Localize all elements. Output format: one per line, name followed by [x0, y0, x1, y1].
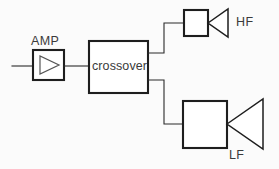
- amp-label: AMP: [31, 35, 59, 48]
- lf-speaker-box: [183, 101, 227, 148]
- crossover-label: crossover: [92, 60, 147, 73]
- hf-speaker-cone-icon: [208, 9, 228, 37]
- wire-crossover-to-hf: [148, 23, 184, 53]
- crossover-block-diagram: AMP crossover HF LF: [0, 0, 279, 169]
- lf-label: LF: [229, 149, 244, 162]
- wire-crossover-to-lf: [148, 80, 183, 124]
- lf-speaker-cone-icon: [227, 99, 263, 149]
- hf-label: HF: [236, 16, 253, 29]
- hf-speaker-box: [184, 10, 208, 36]
